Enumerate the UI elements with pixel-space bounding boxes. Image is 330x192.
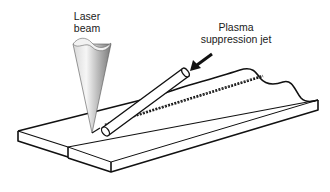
- laser-beam-label-line2: beam: [62, 22, 112, 34]
- jet-label-line1: Plasma: [190, 21, 282, 33]
- plasma-suppression-jet-label: Plasma suppression jet: [190, 21, 282, 45]
- jet-label-line2: suppression jet: [190, 33, 282, 45]
- laser-welding-diagram: Laser beam Plasma suppression jet: [0, 0, 330, 192]
- laser-beam-label-line1: Laser: [62, 10, 112, 22]
- laser-beam-label: Laser beam: [62, 10, 112, 34]
- pointer-arrow: [190, 54, 212, 71]
